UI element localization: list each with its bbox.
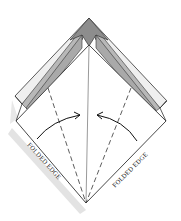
- origami-diagram: FOLDED EDGE FOLDED EDGE: [0, 0, 181, 221]
- front-square: [16, 45, 166, 203]
